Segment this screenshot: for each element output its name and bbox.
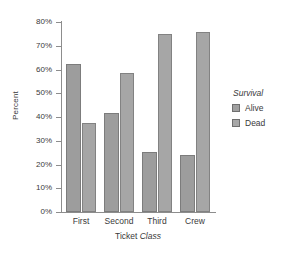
bar-third-alive <box>142 152 157 212</box>
bar-first-dead <box>82 123 97 212</box>
legend-label: Alive <box>245 104 263 113</box>
legend-item-alive[interactable]: Alive <box>232 104 298 113</box>
legend-items: AliveDead <box>232 104 298 127</box>
y-axis-tick-label: 60% <box>36 66 52 74</box>
x-axis-title-italic: Class <box>140 231 161 241</box>
bar-second-dead <box>120 73 135 212</box>
x-axis-title-plain: Ticket <box>115 231 137 241</box>
bar-first-alive <box>66 64 81 212</box>
legend-title: Survival <box>233 88 298 98</box>
y-axis-tick-label: 10% <box>36 184 52 192</box>
y-axis-tick-label: 0% <box>40 208 52 216</box>
x-axis-label-third: Third <box>138 216 176 226</box>
x-axis-label-second: Second <box>100 216 138 226</box>
x-axis-label-first: First <box>62 216 100 226</box>
y-axis-tick-label: 50% <box>36 89 52 97</box>
y-axis-title: Percent <box>8 0 22 210</box>
legend-swatch-icon <box>232 104 240 112</box>
y-axis-tick-label: 70% <box>36 42 52 50</box>
legend-swatch-icon <box>232 119 240 127</box>
bar-third-dead <box>158 34 173 212</box>
survival-bar-chart: Percent 80%70%60%50%40%30%20%10%0% First… <box>0 0 300 254</box>
bar-crew-dead <box>196 32 211 213</box>
x-axis-title: Ticket Class <box>62 231 214 241</box>
legend-label: Dead <box>245 119 265 128</box>
y-axis-tick-label: 20% <box>36 161 52 169</box>
y-axis-title-label: Percent <box>11 91 20 120</box>
plot-area <box>62 22 214 212</box>
legend-item-dead[interactable]: Dead <box>232 119 298 128</box>
y-axis-tick-label: 30% <box>36 137 52 145</box>
legend: Survival AliveDead <box>232 88 298 133</box>
bar-crew-alive <box>180 155 195 212</box>
y-axis-tick-label: 40% <box>36 113 52 121</box>
x-axis-line <box>61 212 216 213</box>
bar-second-alive <box>104 113 119 212</box>
x-axis-label-crew: Crew <box>176 216 214 226</box>
y-axis-tick <box>56 212 62 213</box>
y-axis-tick-label: 80% <box>36 18 52 26</box>
